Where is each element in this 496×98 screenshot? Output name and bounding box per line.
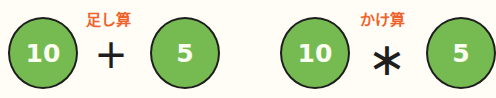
multiplication-left-operand: 10 — [280, 17, 350, 89]
multiplication-label: かけ算 — [360, 8, 405, 29]
addition-left-operand: 10 — [8, 17, 78, 89]
operand-value: 10 — [26, 39, 61, 68]
operand-value: 10 — [298, 39, 333, 68]
operand-value: 5 — [176, 39, 193, 68]
plus-operator-icon: + — [89, 34, 133, 74]
multiplication-right-operand: 5 — [426, 17, 496, 89]
addition-label: 足し算 — [86, 8, 131, 29]
addition-right-operand: 5 — [150, 17, 220, 89]
asterisk-operator-icon: ∗ — [365, 36, 409, 82]
operand-value: 5 — [452, 39, 469, 68]
